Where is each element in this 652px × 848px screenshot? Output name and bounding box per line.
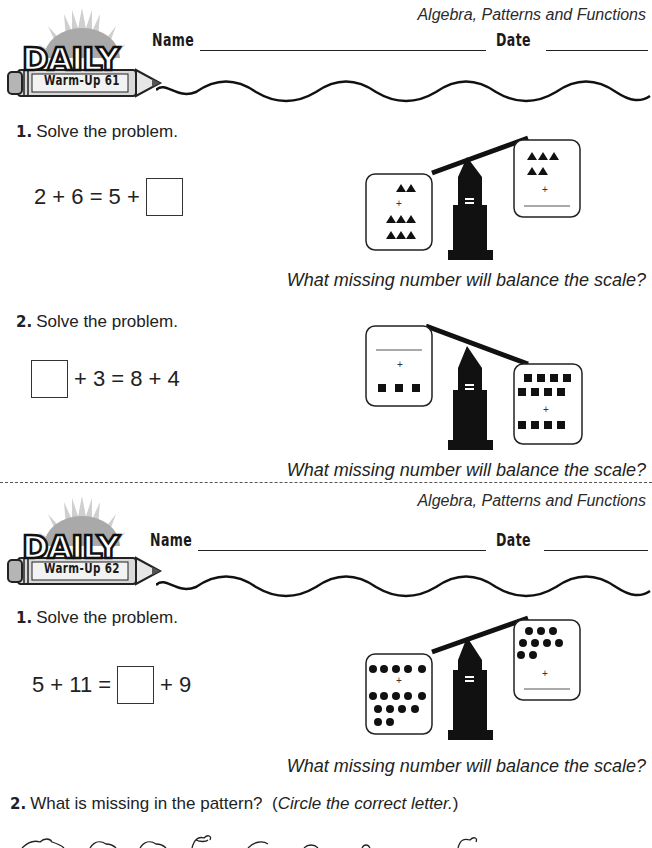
svg-text:+: + [397,359,403,370]
answer-box[interactable] [146,178,183,216]
svg-text:+: + [396,198,402,209]
name-field[interactable] [200,50,486,51]
question-1-equation: 2 + 6 = 5 + [34,178,183,216]
question-1-instruction: 1.Solve the problem. [16,122,178,142]
question-2-instruction: 2.Solve the problem. [16,312,178,332]
pattern-animals-row [0,832,500,848]
equation-text-right: + 9 [160,672,191,698]
animal-4-icon [192,836,211,848]
subject-label: Algebra, Patterns and Functions [417,6,646,24]
svg-text:+: + [396,675,402,686]
equation-text: + 3 = 8 + 4 [74,366,180,392]
balance-scale-circles-icon: + + [360,612,590,747]
question-2-prompt: What missing number will balance the sca… [287,460,646,481]
date-field[interactable] [546,50,648,51]
question-1-prompt: What missing number will balance the sca… [287,270,646,291]
question-2-instruction: 2.What is missing in the pattern? (Circl… [10,794,458,814]
name-label: Name [150,530,192,550]
svg-text:+: + [542,184,548,195]
animal-5-icon [248,842,268,848]
question-1-prompt: What missing number will balance the sca… [287,756,646,777]
logo-subtitle: Warm-Up 62 [44,560,120,576]
question-1-equation: 5 + 11 = + 9 [32,666,191,704]
daily-warmup-logo: DAILY Warm-Up 62 [4,494,164,594]
subject-label: Algebra, Patterns and Functions [417,492,646,510]
date-field[interactable] [544,550,648,551]
animal-2-icon [90,842,116,848]
name-label: Name [152,30,194,50]
equation-text-left: 5 + 11 = [32,672,111,698]
daily-warmup-logo: DAILY Warm-Up 61 [4,6,164,106]
svg-text:+: + [543,404,549,415]
date-label: Date [496,530,531,550]
cut-line-divider [0,482,652,483]
answer-box[interactable] [117,666,154,704]
balance-scale-triangles-icon: + + [360,132,590,267]
date-label: Date [496,30,531,50]
animal-1-icon [22,839,64,848]
wavy-divider-icon [156,565,652,605]
animal-8-icon [458,838,477,848]
svg-text:+: + [542,668,548,679]
name-field[interactable] [198,550,486,551]
logo-subtitle: Warm-Up 61 [44,72,120,88]
question-2-equation: + 3 = 8 + 4 [31,360,180,398]
equation-text: 2 + 6 = 5 + [34,184,140,210]
balance-scale-squares-icon: + + [360,318,590,458]
question-1-instruction: 1.Solve the problem. [16,608,178,628]
wavy-divider-icon [156,70,652,110]
answer-box[interactable] [31,360,68,398]
animal-3-icon [140,842,166,848]
